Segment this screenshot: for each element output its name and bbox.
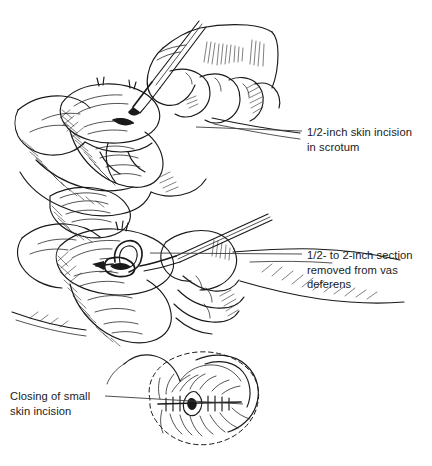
label-skin-incision: 1/2-inch skin incision in scrotum (307, 125, 412, 154)
label-vas-section-removed: 1/2- to 2-inch section removed from vas … (307, 248, 413, 292)
vasectomy-figure: .s { fill:none; stroke:#1a1a1a; stroke-w… (0, 0, 432, 466)
label-closing-incision: Closing of small skin incision (10, 389, 90, 418)
